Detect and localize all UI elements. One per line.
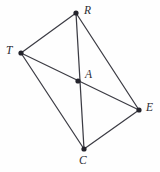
edge-t-r: [21, 13, 76, 53]
vertex-point-c: [81, 146, 86, 151]
edge-t-c: [21, 53, 84, 149]
vertices-group: [18, 10, 141, 151]
vertex-label-e: E: [146, 102, 153, 114]
vertex-label-r: R: [84, 5, 91, 17]
vertex-point-a: [75, 78, 80, 83]
vertex-point-e: [136, 107, 141, 112]
vertex-label-a: A: [85, 69, 92, 81]
geometry-figure: RTAEC: [0, 0, 160, 172]
vertex-point-r: [73, 10, 78, 15]
edge-c-e: [84, 110, 139, 149]
vertex-point-t: [18, 50, 23, 55]
vertex-label-c: C: [79, 155, 87, 167]
geometry-canvas: [0, 0, 160, 172]
vertex-label-t: T: [6, 45, 12, 57]
